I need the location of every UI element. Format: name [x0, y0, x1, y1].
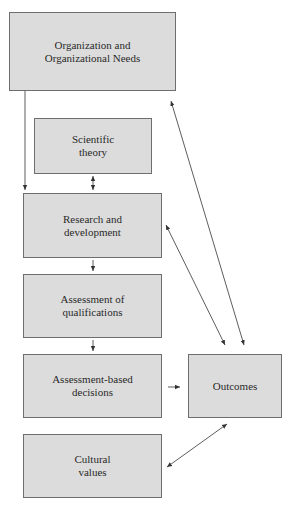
box-assessment-qualifications: Assessment of qualifications: [23, 274, 162, 338]
box-organization-needs: Organization and Organizational Needs: [9, 12, 176, 91]
arrow-out-rnd: [166, 225, 225, 345]
box-label: Assessment of qualifications: [61, 293, 125, 319]
box-scientific-theory: Scientific theory: [34, 118, 152, 174]
arrow-out-org: [171, 101, 244, 345]
box-research-development: Research and development: [23, 193, 162, 258]
box-label: Assessment-based decisions: [52, 373, 133, 399]
box-label: Outcomes: [213, 380, 258, 393]
box-label: Cultural values: [74, 453, 110, 479]
box-assessment-decisions: Assessment-based decisions: [23, 354, 162, 418]
box-label: Research and development: [63, 213, 122, 239]
box-outcomes: Outcomes: [188, 354, 282, 418]
box-label: Scientific theory: [72, 133, 114, 159]
box-label: Organization and Organizational Needs: [45, 39, 140, 65]
box-cultural-values: Cultural values: [23, 434, 162, 498]
arrow-out-cul: [167, 424, 227, 467]
